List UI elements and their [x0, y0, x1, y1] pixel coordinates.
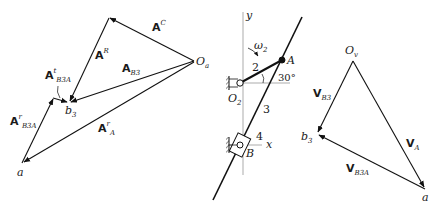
label-pivot-o2: O2: [228, 93, 242, 107]
angle-arc: [262, 74, 264, 83]
joint-a: [279, 57, 285, 63]
leader-line: [57, 86, 60, 98]
label-origin-oa: Oa: [196, 56, 209, 70]
pivot-o2: [237, 80, 243, 86]
label-link-3: 3: [263, 104, 270, 115]
acceleration-polygon: [22, 18, 194, 163]
label-link-4: 4: [256, 131, 263, 142]
label-a-b3: AB3: [122, 63, 140, 77]
label-v-b3: VB3: [313, 88, 331, 102]
label-v-a: VA: [406, 138, 420, 152]
label-link-2: 2: [252, 62, 259, 73]
label-v-b3a: VB3A: [346, 163, 369, 177]
label-y-axis: y: [246, 10, 252, 21]
label-point-a-v: a: [422, 192, 429, 203]
label-a-coriolis: AC: [152, 20, 166, 33]
label-point-b3-v: b3: [301, 131, 313, 145]
label-a-ra: ArA: [98, 121, 115, 137]
label-origin-ov: Ov: [345, 45, 358, 59]
vector-a-t-b3a: [53, 98, 67, 102]
label-point-b-mech: B: [246, 148, 254, 159]
label-x-axis: x: [266, 139, 272, 150]
label-point-a: a: [17, 167, 24, 178]
label-a-t-b3a: AtB3A: [45, 68, 71, 84]
label-point-b3: b3: [65, 105, 77, 119]
pivot-b: [237, 142, 243, 148]
vector-a-r-b3a: [22, 99, 53, 163]
velocity-polygon: [318, 61, 425, 189]
label-a-r-b3a: ArB3A: [10, 114, 37, 130]
label-point-a-mech: A: [287, 55, 295, 66]
label-omega: ω2: [254, 40, 267, 54]
label-angle: 30°: [278, 73, 296, 83]
label-a-r: AR: [95, 48, 109, 61]
